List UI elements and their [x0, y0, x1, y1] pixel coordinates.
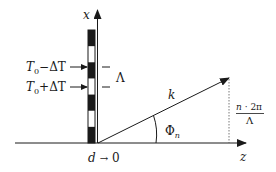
x-axis-label: x: [83, 8, 90, 22]
period-label: Λ: [115, 71, 125, 85]
thickness-label: d→0: [88, 151, 120, 165]
grating-diagram: z x T0−ΔT T0+ΔT Λ k Φn n · 2π Λ d→0: [0, 0, 276, 172]
fraction-numerator: n · 2π: [236, 102, 262, 112]
z-axis-label: z: [239, 150, 247, 164]
fraction-denominator: Λ: [245, 115, 254, 126]
label-t0-minus-dt: T0−ΔT: [26, 60, 66, 76]
grating-segment-black: [88, 127, 95, 143]
angle-arc: [154, 116, 157, 144]
label-t0-plus-dt: T0+ΔT: [26, 80, 66, 96]
grating-segment-black: [88, 30, 95, 46]
grating-bar: [88, 30, 95, 143]
wave-vector-label: k: [168, 88, 175, 102]
angle-label: Φn: [165, 124, 180, 140]
grating-segment-black: [88, 95, 95, 111]
wave-vector-k: [98, 78, 229, 143]
grating-segment-black: [88, 62, 95, 78]
